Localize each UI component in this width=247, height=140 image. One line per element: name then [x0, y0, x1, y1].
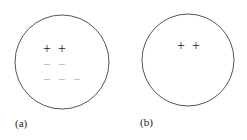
panel-b-label: (b) — [140, 116, 153, 128]
panel-a-label: (a) — [15, 117, 27, 129]
negative-charge: − — [58, 58, 65, 71]
negative-charge: − — [43, 58, 50, 71]
negative-charge: − — [58, 73, 65, 86]
negative-charge: − — [43, 73, 50, 86]
positive-charge: + — [43, 42, 51, 56]
panel-b-circle — [142, 14, 234, 106]
positive-charge: + — [177, 39, 185, 53]
figure-canvas — [0, 0, 247, 140]
positive-charge: + — [58, 42, 66, 56]
positive-charge: + — [192, 39, 200, 53]
negative-charge: − — [73, 73, 80, 86]
